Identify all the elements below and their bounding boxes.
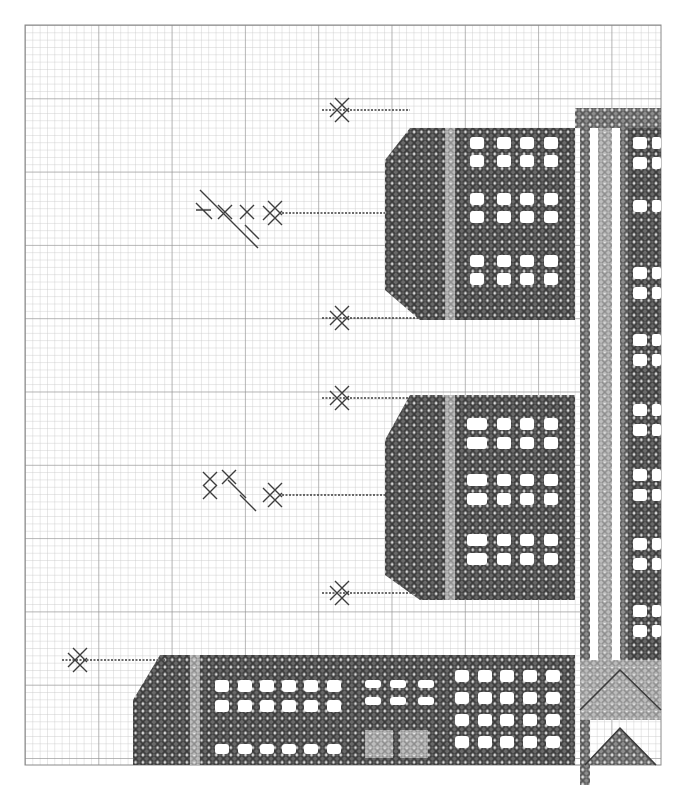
building-middle (385, 395, 575, 600)
building-bottom (133, 655, 575, 765)
building-top (385, 128, 575, 320)
building-right-tower (575, 108, 661, 785)
cross-stitch-chart (0, 0, 686, 792)
